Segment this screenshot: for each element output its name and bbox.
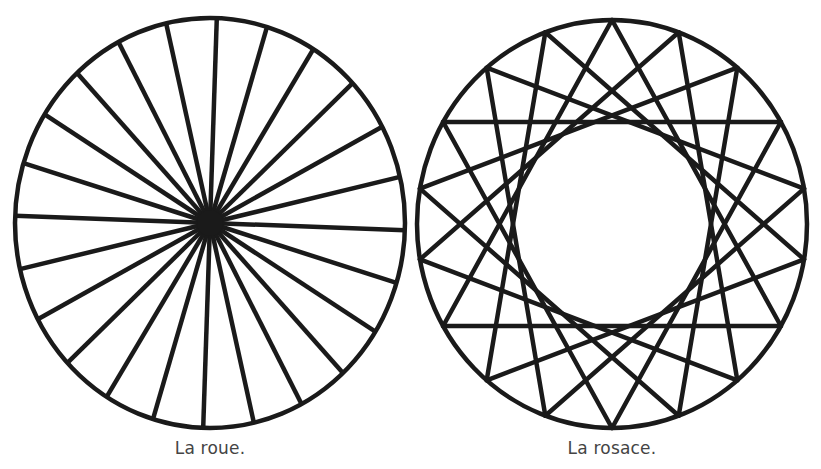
rosace-figure bbox=[417, 20, 807, 428]
wheel-spoke bbox=[203, 223, 210, 428]
wheel-hub bbox=[197, 210, 223, 236]
wheel-spoke bbox=[20, 223, 210, 269]
rosace-caption: La rosace. bbox=[512, 438, 712, 458]
diagram-canvas bbox=[0, 0, 821, 469]
wheel-caption: La roue. bbox=[110, 438, 310, 458]
wheel-spoke bbox=[210, 223, 405, 230]
wheel-spoke bbox=[210, 18, 217, 223]
wheel-spoke bbox=[15, 216, 210, 223]
wheel-spoke bbox=[210, 177, 400, 223]
wheel-spoke bbox=[210, 223, 254, 423]
wheel-figure bbox=[15, 18, 405, 428]
wheel-spoke bbox=[166, 23, 210, 223]
rosace-rim bbox=[417, 20, 807, 428]
